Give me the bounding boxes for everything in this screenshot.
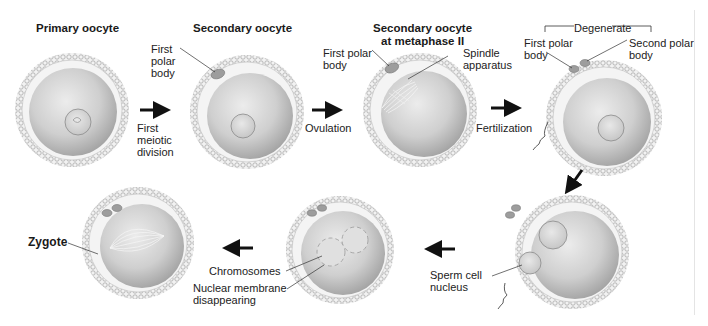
transition-label-ovulation: Ovulation — [305, 122, 351, 134]
stage-title-metaphase-ii: Secondary oocyte at metaphase II — [373, 22, 472, 48]
cell-pronuclei — [492, 195, 629, 309]
cell-secondary-oocyte — [180, 48, 304, 169]
stage-title-secondary-oocyte: Secondary oocyte — [193, 22, 292, 35]
arrow-down-left-icon — [570, 170, 582, 187]
right-edge-divider — [694, 10, 695, 315]
label-second-polar-body: Second polar body — [629, 37, 694, 61]
oocyte-to-zygote-diagram: Primary oocyte Secondary oocyte Secondar… — [0, 0, 708, 326]
transition-label-first-meiotic-division: First meiotic division — [137, 122, 174, 158]
cell-membranes-disappearing — [286, 196, 394, 304]
stage-title-zygote: Zygote — [28, 236, 67, 249]
label-nuclear-membrane-disappearing: Nuclear membrane disappearing — [193, 282, 287, 306]
label-spindle-apparatus: Spindle apparatus — [463, 47, 512, 71]
stage-title-primary-oocyte: Primary oocyte — [36, 22, 119, 35]
cell-secondary-oocyte-metaphase-ii — [363, 50, 477, 167]
label-first-polar-body: First polar body — [151, 43, 175, 79]
label-chromosomes: Chromosomes — [209, 265, 281, 277]
label-degenerate: Degenerate — [574, 22, 632, 34]
label-sperm-cell-nucleus: Sperm cell nucleus — [430, 269, 482, 293]
cell-primary-oocyte — [15, 53, 129, 167]
transition-label-fertilization: Fertilization — [476, 122, 532, 134]
label-first-polar-body: First polar body — [323, 47, 372, 71]
cell-zygote — [68, 187, 194, 299]
label-first-polar-body: First polar body — [524, 37, 573, 61]
